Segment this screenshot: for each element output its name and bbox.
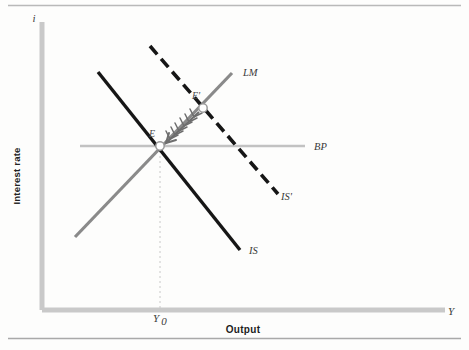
- equilibrium-point-e-label: E: [148, 128, 155, 139]
- y0-tick-subscript: 0: [161, 315, 167, 327]
- equilibrium-point-e-prime-label: E': [191, 90, 201, 101]
- y-axis-caption: Interest rate: [11, 148, 22, 205]
- bp-curve-label: BP: [314, 141, 327, 152]
- page-background: [0, 0, 469, 350]
- equilibrium-point-e: [156, 142, 164, 150]
- is-prime-curve-label: IS': [280, 191, 293, 202]
- y-axis-symbol-label: i: [32, 12, 35, 24]
- equilibrium-point-e-prime: [199, 104, 207, 112]
- is-curve-label: IS: [248, 245, 258, 256]
- lm-curve-label: LM: [242, 67, 259, 78]
- x-axis-caption: Output: [226, 324, 261, 335]
- is-lm-bp-figure: i Y Interest rate Output Y 0 BP LM IS IS…: [0, 0, 469, 350]
- figure-page: i Y Interest rate Output Y 0 BP LM IS IS…: [0, 0, 469, 350]
